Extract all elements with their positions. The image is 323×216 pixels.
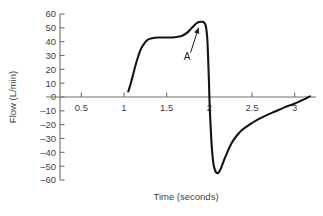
annotation-arrow-head bbox=[194, 27, 199, 34]
y-tick-label: 50 bbox=[45, 22, 56, 33]
y-tick-label: 20 bbox=[45, 64, 56, 75]
x-tick-labels: 0.511.522.53 bbox=[75, 102, 298, 113]
x-tick-marks bbox=[81, 93, 294, 98]
x-tick-label: 1.5 bbox=[160, 102, 173, 113]
flow-time-chart-figure: 6050403020100–10–20–30–40–50–60 0.511.52… bbox=[0, 0, 323, 216]
x-tick-label: 1 bbox=[121, 102, 126, 113]
y-tick-label: –50 bbox=[40, 161, 56, 172]
y-tick-label: –20 bbox=[40, 119, 56, 130]
y-tick-label: 30 bbox=[45, 50, 56, 61]
annotation-label-a: A bbox=[184, 51, 191, 62]
annotation-arrow-line bbox=[191, 33, 197, 52]
y-tick-label: –40 bbox=[40, 147, 56, 158]
y-tick-label: 10 bbox=[45, 78, 56, 89]
x-tick-label: 2.5 bbox=[245, 102, 258, 113]
x-axis-title: Time (seconds) bbox=[153, 191, 218, 202]
y-tick-label: 60 bbox=[45, 8, 56, 19]
y-tick-label: 40 bbox=[45, 36, 56, 47]
y-tick-label: –10 bbox=[40, 105, 56, 116]
y-tick-label: –30 bbox=[40, 133, 56, 144]
chart-canvas: 6050403020100–10–20–30–40–50–60 0.511.52… bbox=[0, 0, 323, 216]
x-tick-label: 0.5 bbox=[75, 102, 88, 113]
y-axis-title: Flow (L/min) bbox=[7, 71, 18, 123]
y-tick-label: –60 bbox=[40, 174, 56, 185]
x-axis-group: 0.511.522.53 bbox=[46, 93, 316, 114]
